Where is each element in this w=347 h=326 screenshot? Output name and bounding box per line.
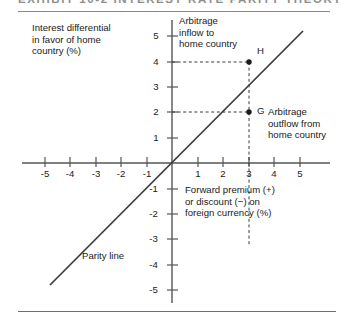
y-tick-label: 2: [148, 106, 164, 117]
y-tick-label: -2: [143, 208, 164, 219]
x-tick-label: 5: [292, 168, 308, 179]
parity-line: [50, 31, 303, 285]
y-tick-label: 3: [148, 81, 164, 92]
data-point-g-label: G: [257, 105, 264, 116]
parity-line-label: Parity line: [82, 250, 124, 262]
y-tick-label: 1: [148, 132, 164, 143]
data-point-h-label: H: [257, 45, 264, 56]
x-tick-label: -3: [86, 168, 106, 179]
x-tick-label: 2: [215, 168, 231, 179]
x-tick-label: -2: [111, 168, 131, 179]
y-axis-title: Interest differential in favor of home c…: [32, 22, 162, 57]
data-point-g: [246, 109, 251, 114]
x-tick-label: -1: [137, 168, 157, 179]
x-tick-label: -5: [35, 168, 55, 179]
y-tick-label: -3: [143, 233, 164, 244]
x-tick-label: -4: [60, 168, 80, 179]
y-tick-label: 4: [148, 56, 164, 67]
data-point-h: [246, 59, 251, 64]
annotation-arbitrage-outflow: Arbitrage outflow from home country: [268, 106, 344, 141]
x-tick-label: 1: [190, 168, 206, 179]
y-tick-label: -4: [143, 259, 164, 270]
interest-rate-parity-figure: EXHIBIT 10-2 INTEREST RATE PARITY THEORY: [0, 0, 347, 326]
y-tick-label: -5: [143, 284, 164, 295]
figure-bottom-rule: [18, 311, 336, 312]
x-axis-title: Forward premium (+) or discount (−) on f…: [185, 184, 315, 219]
y-tick-label: -1: [143, 183, 164, 194]
x-tick-label: 3: [241, 168, 257, 179]
x-tick-label: 4: [266, 168, 282, 179]
